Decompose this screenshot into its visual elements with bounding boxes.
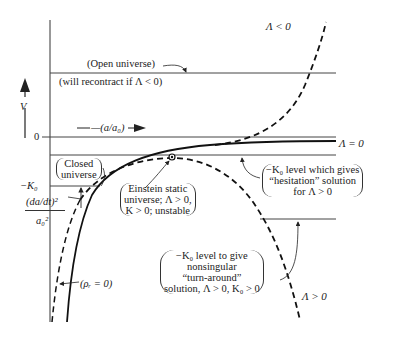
cosmology-potential-diagram: Λ < 0 (Open universe) (will recontract i… (0, 0, 393, 342)
lambda-negative-label: Λ < 0 (266, 21, 291, 32)
einstein-line3: K > 0; unstable (124, 205, 192, 216)
turnaround-line4: solution, Λ > 0, K₀ > 0 (164, 283, 260, 294)
hesitation-annotation: −K₀ level which gives “hesitation” solut… (262, 164, 363, 197)
zero-tick-label: 0 (34, 131, 39, 142)
closed-universe-annotation: Closed universe (56, 158, 102, 180)
lambda-positive-label: Λ > 0 (302, 291, 327, 302)
turnaround-annotation: −K₀ level to give nonsingular “turn-arou… (160, 250, 264, 294)
einstein-static-annotation: Einstein static universe; Λ > 0, K > 0; … (120, 183, 196, 216)
closed-universe-line2: universe (61, 169, 97, 180)
hesitation-line2: “hesitation” solution (266, 175, 359, 186)
y-quantity-denominator: a₀² (36, 215, 48, 226)
y-quantity-numerator: (da/dt)² (26, 196, 58, 207)
hesitation-line3: for Λ > 0 (266, 186, 359, 197)
turnaround-line1: −K₀ level to give (164, 250, 260, 261)
open-universe-label: (Open universe) (87, 58, 155, 69)
hesitation-line1: −K₀ level which gives (266, 164, 359, 175)
open-universe-sublabel: (will recontract if Λ < 0) (59, 76, 162, 87)
v-arrow-head-icon (20, 78, 30, 92)
lambda-zero-label: Λ = 0 (339, 138, 364, 149)
fraction-bar (25, 210, 65, 211)
minus-k0-label: −K₀ (20, 180, 38, 191)
y-axis-label: V (20, 101, 26, 112)
lambda-negative-curve (215, 22, 326, 145)
einstein-line1: Einstein static (124, 183, 192, 194)
closed-universe-line1: Closed (61, 158, 97, 169)
rho-r-zero-label: (ρᵣ = 0) (80, 278, 112, 289)
turnaround-line2: nonsingular (164, 261, 260, 272)
rho-r-zero-curve (52, 200, 80, 322)
turnaround-line3: “turn-around” (164, 272, 260, 283)
x-axis-label: —(a/a₀) (91, 122, 124, 133)
einstein-line2: universe; Λ > 0, (124, 194, 192, 205)
x-arrow-head-icon (134, 124, 146, 132)
